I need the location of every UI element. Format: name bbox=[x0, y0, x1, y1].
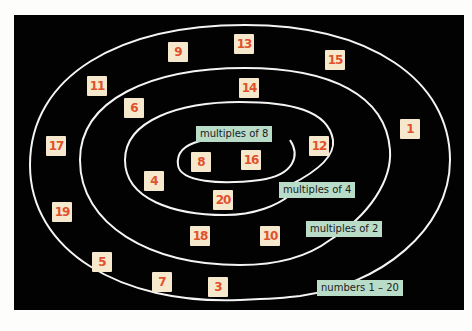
number-tile: 6 bbox=[124, 98, 144, 118]
number-tile: 9 bbox=[168, 42, 188, 62]
number-tile: 10 bbox=[260, 226, 280, 246]
number-tile: 4 bbox=[144, 171, 164, 191]
number-tile: 5 bbox=[92, 252, 112, 272]
number-tile: 13 bbox=[234, 34, 254, 54]
number-tile: 16 bbox=[241, 150, 261, 170]
number-tile: 14 bbox=[239, 78, 259, 98]
number-tile: 12 bbox=[309, 136, 329, 156]
number-tile: 18 bbox=[190, 226, 210, 246]
number-tile: 3 bbox=[208, 277, 228, 297]
set-label: multiples of 2 bbox=[306, 221, 382, 237]
number-tile: 19 bbox=[52, 202, 72, 222]
set-label: multiples of 4 bbox=[279, 182, 355, 198]
number-tile: 20 bbox=[213, 190, 233, 210]
set-label: numbers 1 – 20 bbox=[317, 280, 403, 296]
set-label: multiples of 8 bbox=[196, 126, 272, 142]
number-tile: 15 bbox=[325, 50, 345, 70]
number-tile: 11 bbox=[87, 76, 107, 96]
number-tile: 1 bbox=[400, 119, 420, 139]
number-tile: 17 bbox=[46, 136, 66, 156]
number-tile: 7 bbox=[152, 272, 172, 292]
number-tile: 8 bbox=[191, 152, 211, 172]
